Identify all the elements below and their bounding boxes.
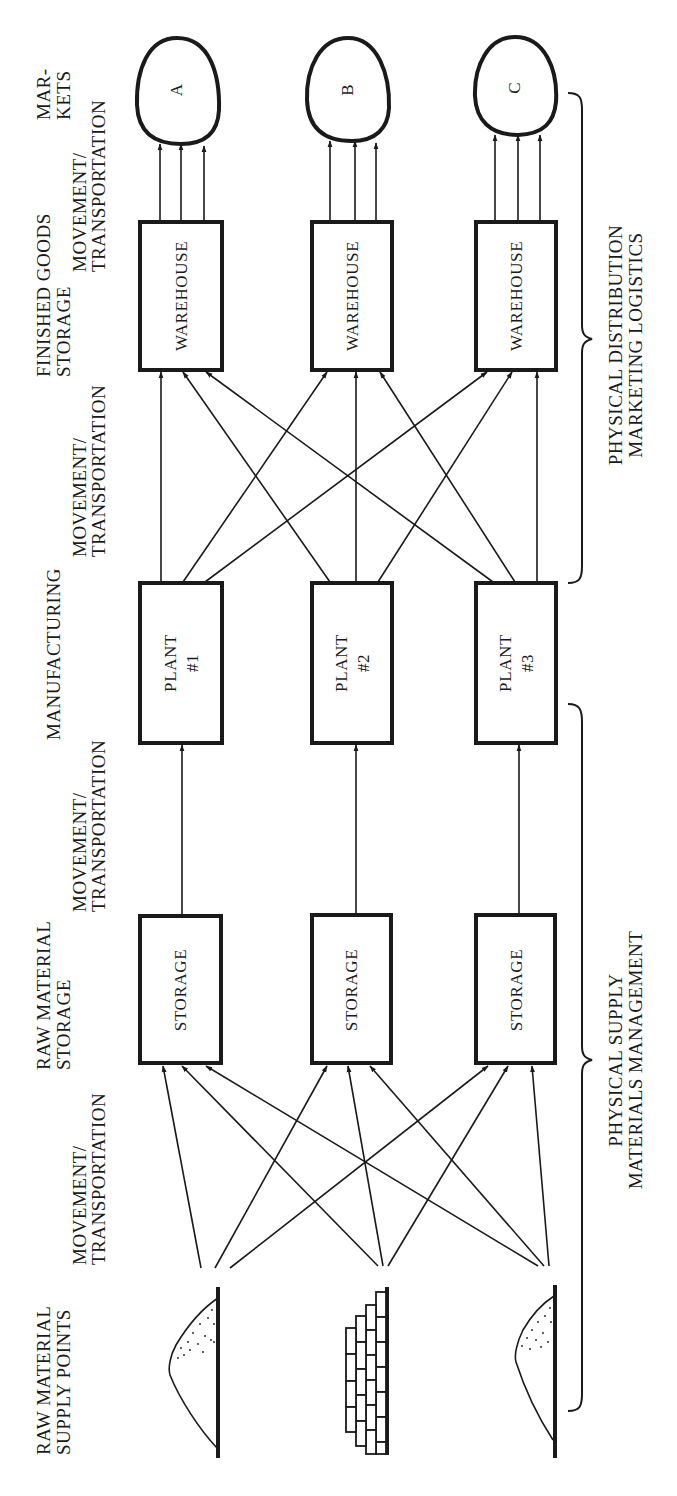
supply-point-3-mound-icon [515, 1285, 555, 1458]
svg-text:KETS: KETS [53, 71, 74, 121]
svg-text:MOVEMENT/: MOVEMENT/ [69, 152, 90, 272]
svg-text:STORAGE: STORAGE [507, 949, 526, 1031]
flows-plant-to-warehouse [161, 372, 537, 582]
svg-text:A: A [167, 83, 186, 96]
warehouse-3: WAREHOUSE [476, 222, 556, 370]
market-b: B [307, 38, 389, 141]
svg-text:MOVEMENT/: MOVEMENT/ [69, 437, 90, 557]
stage-label-raw-storage: RAW MATERIAL STORAGE [33, 921, 74, 1070]
plant-1: PLANT #1 [140, 583, 222, 743]
market-c: C [475, 37, 556, 135]
stage-label-finished-storage: FINISHED GOODS STORAGE [33, 213, 74, 377]
svg-text:MATERIALS MANAGEMENT: MATERIALS MANAGEMENT [625, 931, 646, 1190]
svg-text:TRANSPORTATION: TRANSPORTATION [88, 385, 109, 557]
svg-text:#2: #2 [354, 654, 373, 672]
flows-warehouse-to-market [160, 135, 540, 222]
storage-3: STORAGE [476, 915, 555, 1063]
stage-label-movement-1: MOVEMENT/ TRANSPORTATION [69, 1093, 109, 1265]
storage-1: STORAGE [140, 916, 221, 1063]
svg-text:PHYSICAL SUPPLY: PHYSICAL SUPPLY [605, 973, 626, 1146]
svg-text:MOVEMENT/: MOVEMENT/ [69, 1145, 90, 1265]
svg-text:B: B [338, 84, 357, 95]
svg-text:STORAGE: STORAGE [171, 949, 190, 1031]
market-a: A [137, 38, 219, 144]
svg-text:STORAGE: STORAGE [53, 286, 74, 377]
svg-text:WAREHOUSE: WAREHOUSE [343, 241, 362, 351]
svg-text:STORAGE: STORAGE [342, 949, 361, 1031]
stage-label-movement-3: MOVEMENT/ TRANSPORTATION [69, 385, 109, 557]
warehouse-1: WAREHOUSE [140, 222, 222, 370]
svg-text:RAW MATERIAL: RAW MATERIAL [33, 1306, 54, 1455]
storage-2: STORAGE [312, 915, 391, 1063]
svg-text:PLANT: PLANT [332, 634, 351, 692]
stage-label-supply-points: RAW MATERIAL SUPPLY POINTS [33, 1306, 74, 1455]
plant-2: PLANT #2 [312, 583, 392, 743]
stage-label-movement-2: MOVEMENT/ TRANSPORTATION [69, 740, 109, 912]
supply-point-2-brick-stack-icon [346, 1287, 387, 1455]
svg-text:RAW MATERIAL: RAW MATERIAL [33, 921, 54, 1070]
stage-label-markets: MAR- KETS [33, 68, 74, 120]
svg-text:MOVEMENT/: MOVEMENT/ [69, 792, 90, 912]
svg-text:FINISHED GOODS: FINISHED GOODS [33, 213, 54, 377]
supply-point-1-mound-icon [169, 1287, 218, 1458]
flows-storage-to-plant [182, 745, 519, 914]
stage-label-manufacturing: MANUFACTURING [43, 568, 64, 740]
brace-physical-supply: PHYSICAL SUPPLY MATERIALS MANAGEMENT [568, 704, 646, 1411]
svg-text:MARKETING LOGISTICS: MARKETING LOGISTICS [625, 232, 646, 457]
svg-text:MAR-: MAR- [33, 68, 54, 120]
svg-text:C: C [505, 82, 524, 93]
flows-supply-to-storage [163, 1066, 549, 1268]
svg-text:TRANSPORTATION: TRANSPORTATION [88, 1093, 109, 1265]
svg-text:SUPPLY POINTS: SUPPLY POINTS [53, 1309, 74, 1455]
svg-text:PHYSICAL DISTRIBUTION: PHYSICAL DISTRIBUTION [605, 225, 626, 465]
svg-text:TRANSPORTATION: TRANSPORTATION [88, 100, 109, 272]
svg-text:TRANSPORTATION: TRANSPORTATION [88, 740, 109, 912]
svg-text:#1: #1 [183, 654, 202, 672]
svg-text:#3: #3 [518, 654, 537, 672]
brace-physical-distribution: PHYSICAL DISTRIBUTION MARKETING LOGISTIC… [568, 93, 646, 583]
stage-label-movement-4: MOVEMENT/ TRANSPORTATION [69, 100, 109, 272]
plant-3: PLANT #3 [476, 583, 556, 743]
svg-text:WAREHOUSE: WAREHOUSE [172, 241, 191, 351]
logistics-flow-diagram: RAW MATERIAL SUPPLY POINTS MOVEMENT/ TRA… [0, 0, 677, 1496]
svg-text:WAREHOUSE: WAREHOUSE [507, 241, 526, 351]
warehouse-2: WAREHOUSE [312, 222, 392, 370]
svg-text:PLANT: PLANT [161, 634, 180, 692]
svg-text:PLANT: PLANT [496, 634, 515, 692]
svg-text:MANUFACTURING: MANUFACTURING [43, 568, 64, 740]
svg-text:STORAGE: STORAGE [53, 979, 74, 1070]
